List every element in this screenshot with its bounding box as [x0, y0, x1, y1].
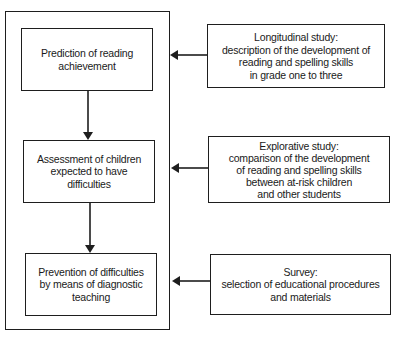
step-prevention-line-1: Prevention of difficulties	[38, 266, 144, 279]
arrowhead-left-icon	[170, 50, 178, 60]
study-survey-line-1: Survey:	[283, 266, 317, 279]
study-longitudinal-line-4: in grade one to three	[250, 69, 343, 82]
step-assessment: Assessment of children expected to have …	[23, 140, 155, 203]
step-prevention-line-2: by means of diagnostic	[40, 278, 143, 291]
step-prediction-line-1: Prediction of reading	[41, 47, 133, 60]
step-prevention-line-3: teaching	[72, 291, 110, 304]
step-prediction-line-2: achievement	[58, 60, 115, 73]
step-assessment-line-1: Assessment of children	[37, 153, 141, 166]
study-explorative-line-4: between at-risk children	[246, 176, 352, 188]
study-explorative-line-1: Explorative study:	[259, 140, 338, 152]
study-explorative: Explorative study: comparison of the dev…	[208, 136, 390, 203]
study-survey: Survey: selection of educational procedu…	[210, 254, 391, 315]
study-explorative-line-3: of reading and spelling skills	[236, 164, 361, 176]
study-longitudinal: Longitudinal study: description of the d…	[207, 24, 385, 88]
study-survey-line-3: and materials	[270, 291, 330, 304]
study-survey-line-2: selection of educational procedures	[221, 278, 379, 291]
step-assessment-line-3: difficulties	[67, 178, 111, 191]
step-prediction: Prediction of reading achievement	[21, 28, 153, 91]
arrowhead-left-icon	[172, 276, 180, 286]
study-explorative-line-5: and other students	[257, 188, 340, 200]
step-prevention: Prevention of difficulties by means of d…	[25, 253, 157, 316]
study-longitudinal-line-1: Longitudinal study:	[254, 31, 338, 44]
step-assessment-line-2: expected to have	[51, 165, 128, 178]
arrowhead-left-icon	[171, 163, 179, 173]
study-longitudinal-line-3: reading and spelling skills	[239, 56, 353, 69]
study-explorative-line-2: comparison of the development	[229, 152, 370, 164]
study-longitudinal-line-2: description of the development of	[222, 44, 370, 57]
